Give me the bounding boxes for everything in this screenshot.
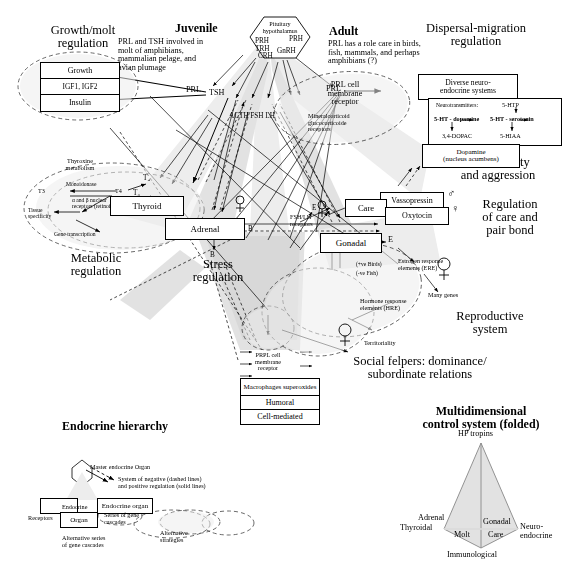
serotonin-label: 5-HT - serotonin xyxy=(490,116,534,123)
thyroid-box: Thyroid xyxy=(110,196,184,216)
dopamine-nucleus-box: Dopamine (nucleus acumbens) xyxy=(422,144,520,168)
territoriality-repro-label: Territoriality xyxy=(364,340,396,347)
5htp-label: 5-HTP xyxy=(502,102,519,109)
legend-alternative-series-label: Alternative series of gene cascades xyxy=(62,535,105,548)
juvenile-note: PRL and TSH involved in molt of amphibia… xyxy=(118,38,203,72)
b-adrenal-right-label: B xyxy=(248,226,253,234)
legend-receptors-label: Receptors xyxy=(28,515,53,522)
tropins-label: ACTH FSH LH xyxy=(229,113,275,121)
heading-social-relations: Social felpers: dominance/ subordinate r… xyxy=(320,355,520,381)
heading-adult: Adult xyxy=(329,25,358,38)
hre-label: Hormone response elements (HRE) xyxy=(360,298,407,311)
tsh-label: TSH xyxy=(209,89,224,98)
t3-label: T3 xyxy=(38,188,45,195)
prh-right-label: PRH xyxy=(289,36,303,44)
cell-mediated-box: Cell-mediated xyxy=(240,409,320,425)
triangle-thyroidal-label: Thyroidal xyxy=(400,524,432,533)
t4-label: T4 xyxy=(115,188,122,195)
dopac-label: 3,4-DOPAC xyxy=(442,133,472,140)
e-left-label: E xyxy=(312,205,316,213)
thyroxine-metabolism-label: Thyroxine metabolism xyxy=(50,158,110,171)
many-genes-label: Many genes xyxy=(428,292,458,299)
pituitary-hypothalamus-label: Pituitary hypothalamus xyxy=(250,21,310,34)
triangle-hp-tropins-label: HP tropins xyxy=(458,430,493,439)
triangle-adrenal-label: Adrenal xyxy=(418,514,444,523)
triangle-care-label: Care xyxy=(488,531,503,540)
heading-endocrine-hierarchy: Endocrine hierarchy xyxy=(62,420,168,433)
gene-transcription-label: Gene transcription xyxy=(54,232,95,238)
master-endocrine-organ-label: Master endocrine Organ xyxy=(90,464,150,471)
birds-label: (+ve Birds) xyxy=(356,262,382,268)
triangle-immunological-label: Immunological xyxy=(447,551,497,560)
heading-stress-regulation: Stress regulation xyxy=(172,258,264,284)
heading-metabolic-regulation: Metabolic regulation xyxy=(36,252,156,278)
heading-multidimensional-control: Multidimensional control system (folded) xyxy=(400,405,562,430)
adrenal-box: Adrenal xyxy=(165,218,245,240)
monoidonase-label: Monoidonase xyxy=(66,182,96,188)
gnrh-label: GnRH xyxy=(277,48,296,56)
legend-endocrine-label: Endocrine xyxy=(62,504,87,511)
heading-care-pairbond: Regulation of care and pair bond xyxy=(452,198,568,237)
fsh-lh-receptors-label: FSH/LH receptors xyxy=(290,214,313,227)
neurotransmitters-label: Neurotransmitters: xyxy=(436,103,478,109)
diverse-line2: endocrine systems xyxy=(440,87,496,95)
triangle-gonadal-label: Gonadal xyxy=(483,518,511,527)
b-down-label: B xyxy=(210,252,215,260)
legend-series-gene-cascades-label: Series of gene cascades xyxy=(104,512,139,525)
adult-note: PRL has a role care in birds, fish, mamm… xyxy=(328,40,421,66)
gonadal-box: Gonadal xyxy=(320,233,382,253)
legend-organ-box: Organ xyxy=(60,512,98,528)
male-symbol-care: ♂ xyxy=(447,188,455,200)
prpl-receptor-label: PRPL cell membrane receptor xyxy=(243,352,293,372)
system-regulation-label: System of negative (dashed lines) and po… xyxy=(118,476,206,489)
t4-outer-label: T₄ xyxy=(143,175,150,183)
insulin-row: Insulin xyxy=(40,94,120,112)
oxytocin-box: Oxytocin xyxy=(385,207,449,225)
nucleus-line2: (nucleus acumbens) xyxy=(443,156,499,163)
dopamine-label: 5-HT - dopamine xyxy=(434,116,479,123)
tissue-specificity-label: Tissue specificity xyxy=(28,208,51,220)
triangle-neuroendocrine-label: Neuro- endocrine xyxy=(520,523,552,540)
heading-reproductive-system: Reproductive system xyxy=(430,310,550,336)
triangle-molt-label: Molt xyxy=(454,531,470,540)
figure-canvas: Growth/molt regulation Juvenile Adult Di… xyxy=(0,0,571,569)
heading-juvenile: Juvenile xyxy=(175,22,218,35)
female-symbol-care: ♀ xyxy=(451,203,459,215)
prl-cell-membrane-receptor-label: PRL cell membrane receptor xyxy=(312,81,378,107)
care-box: Care xyxy=(345,199,387,217)
crh-label: CRH xyxy=(258,53,273,61)
hiaa-label: 5-HIAA xyxy=(500,133,521,140)
diverse-neuroendocrine-box: Diverse neuro- endocrine systems xyxy=(418,74,518,100)
ere-label: Estrogen response elements (ERE) xyxy=(398,258,443,271)
legend-alternative-strategies-label: Alternative strategies xyxy=(160,530,188,543)
prl-juvenile-label: PRL xyxy=(186,86,201,95)
e-gonadal-label: E xyxy=(388,236,393,245)
mineralcorticoid-receptors-label: Mineralcorticoid glucocorticoide recepto… xyxy=(308,113,350,133)
fish-label: (-ve Fish) xyxy=(356,271,378,277)
